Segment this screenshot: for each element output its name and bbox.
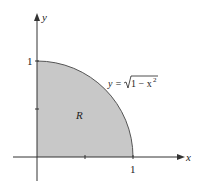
- quarter-circle-diagram: y x 1 1 R y = 1 − x 2: [0, 0, 204, 188]
- curve-label-rhs: 1 − x: [131, 78, 152, 89]
- curve-label-lhs: y =: [107, 78, 122, 89]
- region-r: [37, 61, 133, 157]
- y-axis-label: y: [41, 11, 47, 23]
- x-axis-label: x: [185, 151, 191, 163]
- x-tick-label-one: 1: [130, 163, 136, 175]
- y-tick-label-one: 1: [27, 55, 33, 67]
- curve-label-exponent: 2: [153, 76, 157, 84]
- region-label: R: [75, 109, 83, 121]
- y-axis-arrow-icon: [34, 13, 40, 21]
- curve-equation-label: y = 1 − x 2: [107, 76, 158, 89]
- x-axis-arrow-icon: [177, 154, 185, 160]
